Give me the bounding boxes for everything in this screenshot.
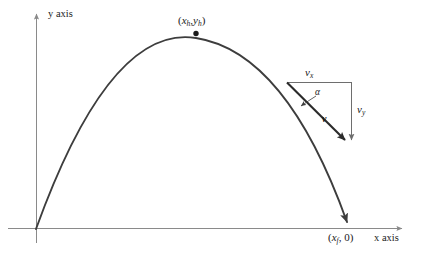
figure-background — [0, 0, 424, 254]
figure-canvas: y axis x axis (xh,yh) (xf, 0) vx vy — [0, 0, 424, 254]
vx-subscript: x — [309, 71, 314, 80]
velocity-vector-label: v — [322, 113, 327, 124]
y-axis-label: y axis — [48, 8, 73, 19]
vertex-point-marker — [193, 31, 198, 36]
vy-subscript: y — [361, 108, 366, 117]
projectile-motion-figure: y axis x axis (xh,yh) (xf, 0) vx vy — [0, 0, 424, 254]
vertex-close-paren: ) — [202, 14, 206, 27]
x-axis-label: x axis — [374, 232, 399, 243]
landing-rest: , 0) — [339, 231, 354, 244]
